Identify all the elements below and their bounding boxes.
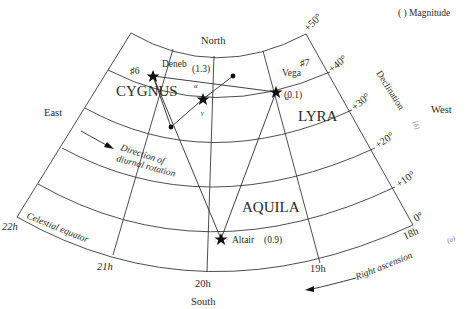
- dec-arc-20: [62, 148, 375, 187]
- declination-axis-label: Declination: [374, 69, 406, 112]
- ra-arrow-shaft: [312, 278, 356, 289]
- star-altair-icon: [215, 233, 228, 245]
- star-vega-icon: [270, 86, 283, 98]
- label-deneb-alpha: α: [194, 82, 198, 90]
- ra-line-19h: [263, 51, 320, 263]
- diurnal-arrow-shaft: [81, 131, 108, 146]
- star-dot-cygnus-east-icon: [169, 125, 174, 130]
- ra-tick-20h: 20h: [195, 278, 212, 289]
- label-north: North: [201, 35, 226, 46]
- diurnal-arrow-head-icon: [104, 142, 114, 149]
- declination-symbol: [δ]: [411, 120, 421, 130]
- label-vega-alpha: α: [285, 94, 289, 102]
- dec-tick-0: 0°: [412, 209, 426, 223]
- label-altair: Altair: [232, 235, 255, 245]
- label-lyra-number: ♯7: [300, 58, 310, 68]
- dec-tick-10: +10°: [394, 169, 417, 190]
- label-lyra: LYRA: [298, 108, 337, 124]
- diurnal-rotation-annotation: Direction of diurnal rotation: [81, 131, 177, 179]
- line-vega-altair: [221, 92, 276, 239]
- star-chart: North South East West ( ) Magnitude CYGN…: [0, 0, 468, 309]
- label-cygnus: CYGNUS: [116, 83, 178, 99]
- label-gamma-cygni: γ: [201, 109, 204, 117]
- dec-tick-20: +20°: [373, 130, 396, 151]
- label-west: West: [431, 104, 452, 115]
- dec-tick-30: +30°: [349, 91, 372, 113]
- label-vega: Vega: [282, 68, 302, 78]
- ra-tick-21h: 21h: [97, 261, 113, 272]
- label-south: South: [191, 296, 216, 307]
- label-deneb-magnitude: (1.3): [192, 64, 210, 75]
- star-dot-cygnus-west-icon: [231, 74, 236, 79]
- star-deneb-icon: [147, 70, 160, 82]
- dec-tick-40: +40°: [326, 53, 349, 75]
- ra-line-20h: [207, 56, 214, 272]
- label-cygnus-number: ♯6: [130, 66, 140, 76]
- ra-line-18h: [306, 34, 413, 225]
- magnitude-legend: ( ) Magnitude: [398, 8, 450, 19]
- label-aquila: AQUILA: [242, 199, 300, 215]
- ra-tick-19h: 19h: [310, 263, 327, 274]
- ra-axis-label: Right ascension: [353, 250, 414, 282]
- ra-axis-symbol: (α): [446, 234, 457, 245]
- ra-tick-22h: 22h: [2, 221, 18, 232]
- ra-arrow-head-icon: [305, 286, 314, 292]
- celestial-equator-label: Celestial equator: [25, 211, 90, 245]
- ra-tick-18h: 18h: [401, 225, 421, 242]
- label-altair-magnitude: (0.9): [264, 235, 282, 246]
- dec-tick-50: +50°: [302, 11, 324, 33]
- label-deneb: Deneb: [162, 59, 187, 69]
- ra-line-22h: [17, 33, 131, 217]
- right-ascension-annotation: Right ascension (α): [305, 234, 457, 292]
- label-east: East: [44, 107, 62, 118]
- dec-arc-10: [38, 184, 395, 232]
